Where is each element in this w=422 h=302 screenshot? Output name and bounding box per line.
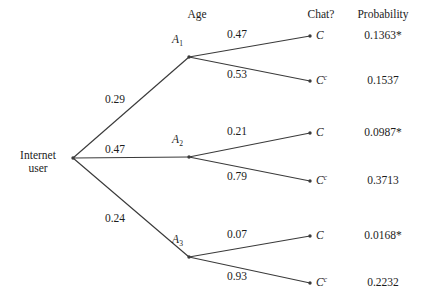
edge-weight-a2-cc: 0.79 <box>222 170 252 182</box>
node-label-a2: A2 <box>172 133 183 145</box>
probability-value-a1-cc: 0.1537 <box>346 74 420 86</box>
edge-root-a2 <box>73 157 189 158</box>
edge-weight-root-a1: 0.29 <box>100 93 130 105</box>
leaf-dot-a3-cc <box>308 281 311 284</box>
node-label-a1: A1 <box>172 33 183 45</box>
node-label-a3: A3 <box>172 233 183 245</box>
probability-value-a3-c: 0.0168* <box>346 229 420 241</box>
root-label-line-2: user <box>28 162 47 174</box>
node-dot-root <box>71 156 74 159</box>
root-node-label: Internet user <box>9 149 67 175</box>
edge-weight-a3-cc: 0.93 <box>222 270 252 282</box>
leaf-dot-a2-cc <box>308 179 311 182</box>
leaf-label-a3-c: C <box>316 229 324 241</box>
leaf-label-a1-cc: Cc <box>316 74 327 86</box>
column-header-age: Age <box>177 8 217 20</box>
edge-weight-a3-c: 0.07 <box>222 228 252 240</box>
column-header-chat: Chat? <box>299 8 343 20</box>
leaf-label-a3-cc: Cc <box>316 276 327 288</box>
node-dot-a1 <box>187 55 190 58</box>
probability-value-a3-cc: 0.2232 <box>346 276 420 288</box>
leaf-dot-a2-c <box>308 131 311 134</box>
edge-weight-a1-cc: 0.53 <box>222 68 252 80</box>
node-dot-a2 <box>187 155 190 158</box>
node-dot-a3 <box>187 255 190 258</box>
edge-weight-a2-c: 0.21 <box>222 125 252 137</box>
column-header-probability: Probability <box>346 8 420 20</box>
leaf-dot-a3-c <box>308 234 311 237</box>
edge-weight-a1-c: 0.47 <box>222 28 252 40</box>
probability-value-a2-c: 0.0987* <box>346 126 420 138</box>
probability-value-a2-cc: 0.3713 <box>346 174 420 186</box>
leaf-dot-a1-cc <box>308 79 311 82</box>
leaf-dot-a1-c <box>308 34 311 37</box>
leaf-label-a1-c: C <box>316 29 324 41</box>
edge-weight-root-a2: 0.47 <box>100 143 130 155</box>
probability-value-a1-c: 0.1363* <box>346 29 420 41</box>
edge-weight-root-a3: 0.24 <box>100 212 130 224</box>
leaf-label-a2-c: C <box>316 126 324 138</box>
leaf-label-a2-cc: Cc <box>316 174 327 186</box>
root-label-line-1: Internet <box>20 149 56 161</box>
